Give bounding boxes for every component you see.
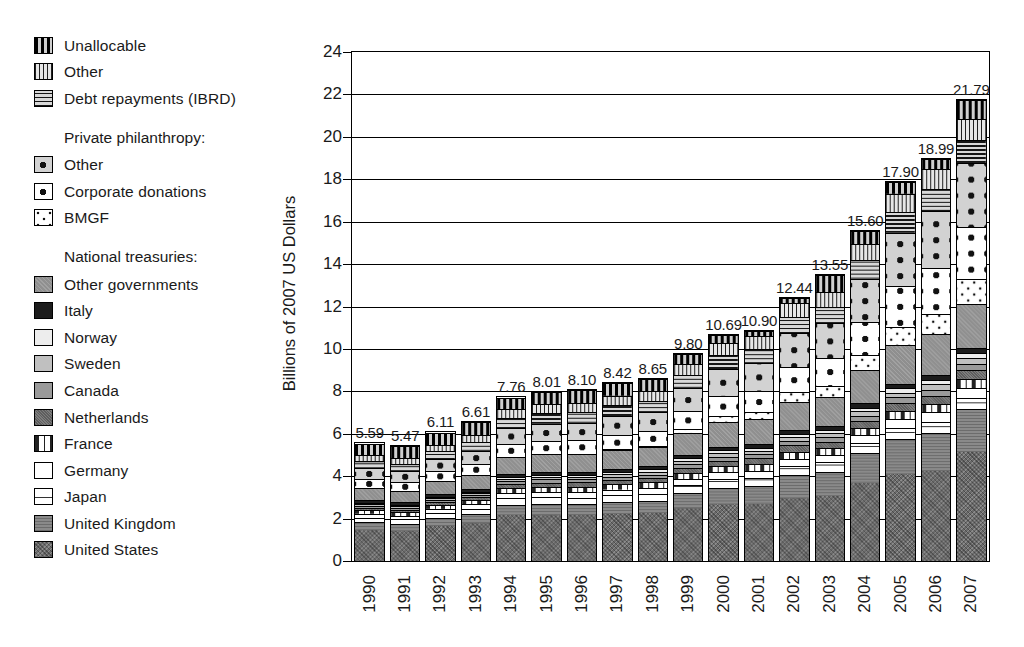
bar-segment-uk xyxy=(709,488,737,505)
bar-segment-other_governments xyxy=(355,488,383,500)
x-axis-tick-label: 2003 xyxy=(820,575,840,613)
bar-segment-other_governments xyxy=(603,450,631,469)
bar-column[interactable]: 13.552003 xyxy=(812,52,847,561)
bar-segment-other xyxy=(922,169,950,189)
stacked-bar[interactable]: 7.76 xyxy=(496,396,526,561)
stacked-bar[interactable]: 8.65 xyxy=(638,378,668,561)
x-axis-tick-label: 2002 xyxy=(784,575,804,613)
bar-segment-private_other xyxy=(568,423,596,440)
bar-column[interactable]: 8.651998 xyxy=(635,52,670,561)
stacked-bar[interactable]: 6.61 xyxy=(461,421,491,561)
bar-segment-uk xyxy=(957,409,985,452)
bar-column[interactable]: 8.011995 xyxy=(529,52,564,561)
bar-column[interactable]: 17.902005 xyxy=(883,52,918,561)
bar-column[interactable]: 10.902001 xyxy=(741,52,776,561)
bar-segment-japan xyxy=(745,478,773,487)
bar-segment-japan xyxy=(780,466,808,475)
bar-segment-france xyxy=(922,404,950,413)
y-axis-tick-mark xyxy=(343,307,352,308)
bar-segment-private_other xyxy=(532,424,560,441)
stacked-bar[interactable]: 18.99 xyxy=(921,158,951,561)
bar-segment-bmgf xyxy=(957,279,985,303)
stacked-bar[interactable]: 6.11 xyxy=(425,431,455,561)
bar-segment-private_other xyxy=(639,412,667,431)
bar-segment-private_other xyxy=(426,459,454,471)
y-axis-tick-mark xyxy=(343,222,352,223)
bar-column[interactable]: 21.792007 xyxy=(954,52,989,561)
bar-segment-japan xyxy=(568,498,596,505)
bar-segment-bmgf xyxy=(816,386,844,397)
bar-segment-uk xyxy=(922,433,950,471)
bar-segment-us xyxy=(780,498,808,561)
stacked-bar[interactable]: 21.79 xyxy=(956,99,986,561)
stacked-bar[interactable]: 5.47 xyxy=(390,445,420,561)
bar-segment-ibrd xyxy=(603,405,631,416)
stacked-bar[interactable]: 12.44 xyxy=(779,297,809,561)
stacked-bars: 5.5919905.4719916.1119926.6119937.761994… xyxy=(352,52,989,561)
bar-segment-uk xyxy=(462,514,490,523)
stacked-bar[interactable]: 8.10 xyxy=(567,389,597,561)
x-axis-tick-label: 2007 xyxy=(961,575,981,613)
x-axis-tick-label: 2006 xyxy=(926,575,946,613)
stacked-bar[interactable]: 10.69 xyxy=(708,334,738,561)
bar-segment-other xyxy=(745,336,773,348)
bar-column[interactable]: 12.442002 xyxy=(777,52,812,561)
bar-column[interactable]: 8.101996 xyxy=(564,52,599,561)
bar-total-label: 10.69 xyxy=(705,316,742,333)
bar-segment-other_governments xyxy=(674,433,702,455)
stacked-bar[interactable]: 17.90 xyxy=(885,181,915,561)
stacked-bar[interactable]: 5.59 xyxy=(354,442,384,561)
y-axis-tick-mark xyxy=(343,434,352,435)
bar-segment-corporate_donations xyxy=(957,227,985,279)
bar-segment-unallocable xyxy=(603,383,631,395)
bar-total-label: 21.79 xyxy=(953,81,990,98)
stacked-bar[interactable]: 15.60 xyxy=(850,230,880,561)
bar-column[interactable]: 15.602004 xyxy=(847,52,882,561)
bar-segment-unallocable xyxy=(391,446,419,458)
bar-segment-unallocable xyxy=(851,231,879,244)
bar-segment-uk xyxy=(674,493,702,508)
stacked-bar[interactable]: 13.55 xyxy=(815,274,845,561)
bar-segment-corporate_donations xyxy=(851,322,879,355)
bar-segment-private_other xyxy=(886,233,914,286)
bar-column[interactable]: 6.611993 xyxy=(458,52,493,561)
bar-segment-unallocable xyxy=(922,159,950,169)
bar-total-label: 8.10 xyxy=(568,371,596,388)
stacked-bar[interactable]: 10.90 xyxy=(744,330,774,561)
bar-segment-other xyxy=(426,445,454,452)
bar-segment-us xyxy=(709,504,737,561)
y-axis-tick-mark xyxy=(343,561,352,562)
bar-column[interactable]: 9.801999 xyxy=(671,52,706,561)
bar-column[interactable]: 7.761994 xyxy=(494,52,529,561)
bar-segment-private_other xyxy=(851,279,879,322)
bar-segment-uk xyxy=(639,501,667,513)
bar-segment-corporate_donations xyxy=(603,435,631,449)
bar-column[interactable]: 6.111992 xyxy=(423,52,458,561)
bar-column[interactable]: 8.421997 xyxy=(600,52,635,561)
bar-segment-private_other xyxy=(603,416,631,434)
y-axis-tick-mark xyxy=(343,519,352,520)
stacked-bar[interactable]: 8.42 xyxy=(602,382,632,561)
bar-column[interactable]: 5.471991 xyxy=(387,52,422,561)
bar-column[interactable]: 5.591990 xyxy=(352,52,387,561)
x-axis-tick-label: 1994 xyxy=(501,575,521,613)
bar-column[interactable]: 10.692000 xyxy=(706,52,741,561)
bar-total-label: 8.42 xyxy=(603,364,631,381)
bar-segment-us xyxy=(886,474,914,561)
bar-total-label: 8.65 xyxy=(639,360,667,377)
bar-segment-france xyxy=(816,448,844,455)
bar-column[interactable]: 18.992006 xyxy=(918,52,953,561)
bar-segment-corporate_donations xyxy=(816,358,844,385)
bar-segment-ibrd xyxy=(426,451,454,459)
bar-segment-other_governments xyxy=(745,419,773,444)
bar-segment-other_governments xyxy=(816,397,844,426)
bar-segment-germany xyxy=(886,419,914,428)
bar-segment-other xyxy=(816,292,844,306)
stacked-bar[interactable]: 8.01 xyxy=(531,391,561,561)
bar-segment-netherlands xyxy=(851,421,879,428)
bar-segment-unallocable xyxy=(816,275,844,293)
bar-segment-ibrd xyxy=(568,412,596,423)
bar-segment-uk xyxy=(532,504,560,515)
stacked-bar[interactable]: 9.80 xyxy=(673,353,703,561)
x-axis-tick-label: 2000 xyxy=(714,575,734,613)
